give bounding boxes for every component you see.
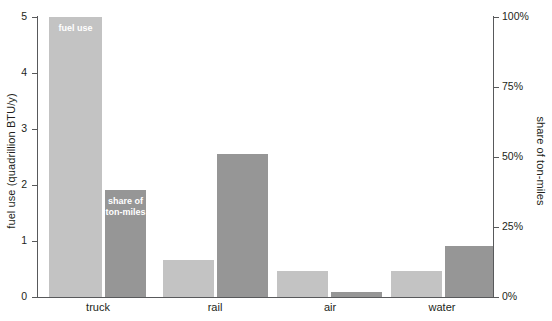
bar-label-share-line1: share of <box>105 196 146 207</box>
bar-label-fuel-use: fuel use <box>49 23 102 34</box>
y-axis-right-ticklabel-100: 100% <box>502 11 542 22</box>
y-axis-right-ticklabel-0: 0% <box>502 291 542 302</box>
bar-truck-share-of-ton-miles[interactable]: share of ton-miles <box>105 190 146 296</box>
y-axis-left-tick-3 <box>32 129 37 130</box>
x-axis-category-water: water <box>402 301 482 313</box>
y-axis-left-ticklabel-3: 3 <box>7 123 27 134</box>
y-axis-left-tick-4 <box>32 73 37 74</box>
x-axis-line <box>37 297 495 299</box>
bar-truck-fuel-use[interactable]: fuel use <box>49 17 102 297</box>
y-axis-right-ticklabel-50: 50% <box>502 151 542 162</box>
y-axis-left-ticklabel-2: 2 <box>7 179 27 190</box>
bar-chart-figure: fuel use (quadrillion BTU/y) share of to… <box>0 0 552 321</box>
bar-rail-share-of-ton-miles[interactable] <box>217 154 268 297</box>
bar-rail-fuel-use[interactable] <box>163 260 214 297</box>
y-axis-right-ticklabel-25: 25% <box>502 221 542 232</box>
y-axis-right-tick-75 <box>494 87 499 88</box>
y-axis-right-tick-50 <box>494 157 499 158</box>
y-axis-left-tick-1 <box>32 241 37 242</box>
x-axis-category-air: air <box>290 301 370 313</box>
y-axis-right-ticklabel-75: 75% <box>502 81 542 92</box>
bar-air-fuel-use[interactable] <box>277 271 328 296</box>
y-axis-right-tick-25 <box>494 227 499 228</box>
y-axis-left-line <box>37 16 38 298</box>
y-axis-left-tick-2 <box>32 185 37 186</box>
y-axis-left-ticklabel-0: 0 <box>7 291 27 302</box>
bar-label-share-line2: ton-miles <box>105 207 146 218</box>
bar-water-fuel-use[interactable] <box>391 271 442 296</box>
x-axis-category-rail: rail <box>175 301 255 313</box>
y-axis-left-tick-0 <box>32 297 37 298</box>
x-axis-category-truck: truck <box>58 301 138 313</box>
y-axis-left-tick-5 <box>32 17 37 18</box>
bar-air-share-of-ton-miles[interactable] <box>331 292 382 296</box>
y-axis-left-title: fuel use (quadrillion BTU/y) <box>5 76 17 246</box>
y-axis-left-ticklabel-1: 1 <box>7 235 27 246</box>
y-axis-right-tick-0 <box>494 297 499 298</box>
y-axis-left-ticklabel-5: 5 <box>7 11 27 22</box>
bar-water-share-of-ton-miles[interactable] <box>445 246 493 296</box>
y-axis-right-tick-100 <box>494 17 499 18</box>
y-axis-left-ticklabel-4: 4 <box>7 67 27 78</box>
